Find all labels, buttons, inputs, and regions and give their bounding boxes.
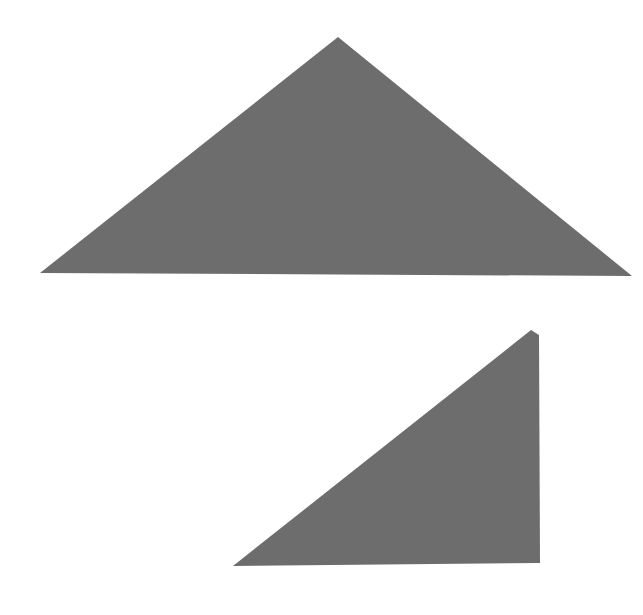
diagram-canvas: [0, 0, 643, 615]
